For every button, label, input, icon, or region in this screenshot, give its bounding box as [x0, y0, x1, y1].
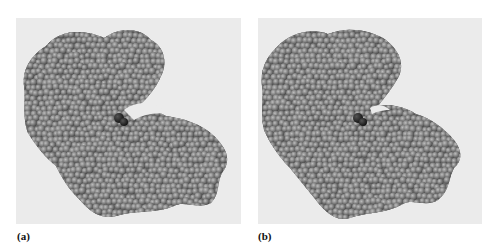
- atom-cluster: [16, 18, 241, 224]
- panel-b-label: (b): [258, 230, 271, 242]
- panel-b-image: [258, 18, 482, 224]
- panel-a-image: [16, 18, 241, 224]
- protein-model-closed: [258, 18, 482, 224]
- ligand-molecule: [120, 118, 128, 126]
- atom-cluster: [258, 18, 482, 224]
- panel-a-label: (a): [17, 230, 30, 242]
- protein-model-open: [16, 18, 241, 224]
- ligand-molecule: [359, 118, 367, 126]
